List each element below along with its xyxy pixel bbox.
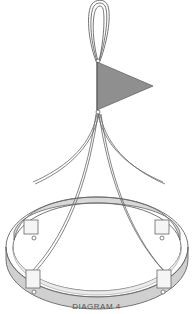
hoop-flag-diagram xyxy=(0,0,193,314)
clip-front-left xyxy=(26,270,40,288)
diagram-caption: DIAGRAM 4 xyxy=(0,302,193,312)
suspension-cords xyxy=(33,114,165,272)
hanging-loop xyxy=(89,0,110,61)
clip-back-left xyxy=(24,220,38,234)
flag xyxy=(97,62,153,110)
bottom-ring-connector xyxy=(96,110,100,114)
clip-back-right xyxy=(155,220,169,234)
clip-front-right xyxy=(157,270,171,288)
